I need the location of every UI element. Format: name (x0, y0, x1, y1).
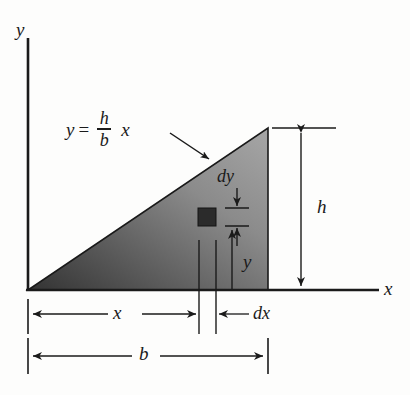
equation-leader-arrow (170, 133, 209, 159)
equation-fraction: h b (97, 109, 111, 149)
x-dimension-label: x (113, 303, 121, 322)
dy-dimension-label: dy (217, 167, 234, 185)
x-dimension (28, 299, 196, 334)
fraction-numerator: h (98, 109, 111, 128)
equation-lhs: y (66, 119, 74, 141)
triangle-diagram-svg (0, 0, 410, 395)
fraction-denominator: b (98, 130, 111, 149)
differential-element-square (198, 208, 216, 226)
equation-equals-sign: = (78, 119, 89, 141)
line-equation: y = h b x (66, 110, 130, 150)
dx-dimension-label: dx (253, 304, 270, 322)
base-dimension-label: b (139, 344, 149, 363)
equation-variable: x (121, 119, 129, 141)
y-dimension-label: y (243, 252, 251, 271)
y-axis-label: y (16, 20, 24, 39)
figure-container: y x y = h b x h b x dx dy y (0, 0, 410, 395)
x-axis-label: x (384, 279, 392, 298)
height-dimension-label: h (317, 197, 327, 216)
